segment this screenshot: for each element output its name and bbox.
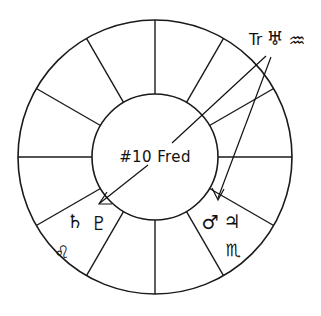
transit-prefix-label: Tr <box>248 31 263 49</box>
astrology-chart-diagram: #10 Fred Tr ♅ ♒ ♄ ♇ ♌ ♂ ♃ ♏ <box>0 0 321 316</box>
house-spoke <box>187 38 224 102</box>
house-spoke <box>87 38 124 102</box>
leader-line-to-center <box>172 56 266 143</box>
jupiter-icon: ♃ <box>223 210 240 232</box>
center-chart-title: #10 Fred <box>119 148 191 166</box>
house-spoke <box>210 89 274 126</box>
pluto-icon: ♇ <box>90 212 107 234</box>
aquarius-icon: ♒ <box>288 29 305 51</box>
leader-line-to-mars-jupiter <box>218 57 271 198</box>
leader-line-to-saturn-pluto <box>100 165 148 203</box>
leo-icon: ♌ <box>54 242 69 262</box>
transit-annotation: Tr ♅ ♒ <box>248 27 306 51</box>
placement-lower-right: ♂ ♃ ♏ <box>201 210 240 261</box>
uranus-icon: ♅ <box>266 27 283 49</box>
scorpio-icon: ♏ <box>225 240 240 260</box>
house-spoke <box>36 89 100 126</box>
saturn-icon: ♄ <box>66 210 83 232</box>
chart-wheel-svg: #10 Fred Tr ♅ ♒ ♄ ♇ ♌ ♂ ♃ ♏ <box>0 0 321 316</box>
annotation-leader-lines <box>99 56 271 204</box>
mars-icon: ♂ <box>201 211 218 233</box>
